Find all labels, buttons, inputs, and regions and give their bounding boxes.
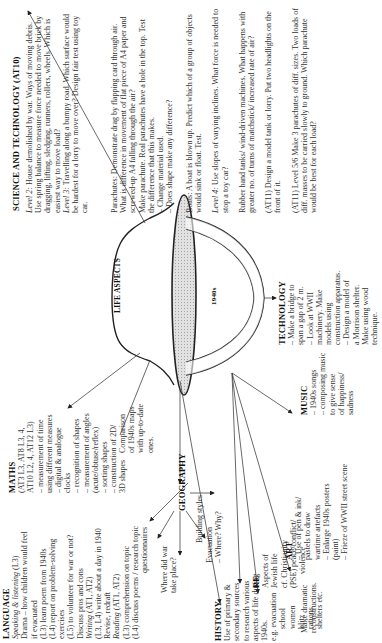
life-aspects-label: LIFE ASPECTS: [113, 258, 122, 313]
geography-heading: GEOGRAPHY: [178, 453, 187, 511]
music-block: MUSIC – 1940s songs – composing music to…: [300, 335, 355, 415]
drama-note: Make dramatic reconstructions.: [300, 563, 318, 633]
decade-label: 1940s: [210, 287, 219, 305]
maths-block: MATHS (AT3 L3, AT8 L3, 4, AT10 L2, 4, AT…: [8, 383, 128, 493]
science-column-2: Parachutes: Demonstrate drag by flapping…: [110, 8, 174, 213]
science-heading: SCIENCE AND TECHNOLOGY (AT10): [12, 56, 21, 211]
language-block: LANGUAGE Speaking & listening (L3) Drama…: [2, 499, 140, 639]
science-column-3: Boats: A boat is blown up. Predict which…: [185, 8, 318, 213]
topic-web-page: LIFE ASPECTS 1940s SCIENCE AND TECHNOLOG…: [0, 0, 382, 643]
geography-building-styles: Building styles: [195, 495, 204, 543]
science-column-1: Level 2: House demolished by war. Ways o…: [25, 8, 89, 213]
geography-questionnaires: questionnaires: [140, 527, 149, 573]
art-block: ART – Use of pen & ink/ pastels to draw …: [285, 440, 349, 560]
technology-block: TECHNOLOGY – Make a bridge to span a gap…: [278, 235, 379, 345]
geography-comparison: Comparison of 1940s maps with up-to-date…: [118, 383, 155, 453]
geography-where: Where did war take place?: [160, 523, 178, 593]
